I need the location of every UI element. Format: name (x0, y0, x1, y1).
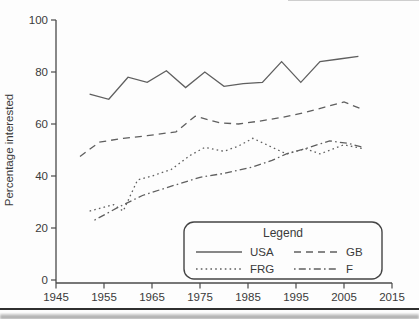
legend-label-usa: USA (250, 246, 274, 258)
y-tick-label: 0 (42, 274, 48, 286)
page-footer-rule (0, 308, 419, 310)
y-tick-label: 60 (35, 118, 48, 130)
series-line-frg (90, 138, 364, 211)
y-tick-label: 100 (29, 14, 48, 26)
y-tick-label: 40 (35, 170, 48, 182)
x-tick-label: 1985 (235, 291, 261, 303)
legend-title: Legend (263, 226, 303, 240)
x-tick-label: 1955 (91, 291, 117, 303)
x-tick-label: 1945 (43, 291, 69, 303)
y-tick-label: 20 (35, 222, 48, 234)
x-tick-label: 2015 (379, 291, 405, 303)
legend-label-f: F (346, 263, 353, 275)
x-tick-label: 1965 (139, 291, 165, 303)
series-line-usa (90, 56, 359, 99)
legend-box: LegendUSAGBFRGF (184, 222, 382, 279)
y-tick-label: 80 (35, 66, 48, 78)
legend-label-gb: GB (346, 246, 363, 258)
scanned-chart-page: 0204060801001945195519651975198519952005… (0, 0, 419, 319)
interest-line-chart: 0204060801001945195519651975198519952005… (0, 0, 419, 310)
legend-label-frg: FRG (250, 263, 274, 275)
series-line-f (94, 141, 363, 220)
x-tick-label: 2005 (331, 291, 357, 303)
y-axis-title: Percentage interested (3, 94, 15, 207)
series-line-gb (80, 102, 363, 157)
x-tick-label: 1995 (283, 291, 309, 303)
x-tick-label: 1975 (187, 291, 213, 303)
page-edge-shadow (0, 314, 419, 319)
